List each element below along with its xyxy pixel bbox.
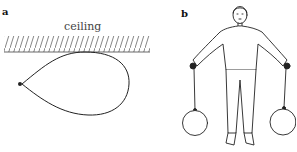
left-foot	[226, 133, 236, 145]
right-balloon-string	[284, 68, 286, 108]
right-foot	[244, 133, 254, 145]
person-legs	[226, 70, 256, 133]
right-balloon	[270, 109, 296, 135]
teardrop-balloon	[22, 52, 129, 115]
person-head	[233, 7, 247, 27]
left-hand	[190, 63, 196, 69]
panel-a-label: a	[2, 6, 8, 17]
ceiling-label: ceiling	[64, 20, 101, 33]
panel-b-label: b	[181, 8, 188, 19]
right-hand	[284, 63, 290, 69]
panel-b	[183, 7, 297, 146]
balloon-knot	[18, 82, 22, 86]
left-balloon-string	[194, 68, 195, 110]
ceiling-hatch	[4, 36, 150, 52]
person-body	[193, 26, 287, 70]
figure-canvas	[0, 0, 296, 152]
panel-a	[4, 36, 150, 115]
left-balloon	[183, 111, 208, 136]
